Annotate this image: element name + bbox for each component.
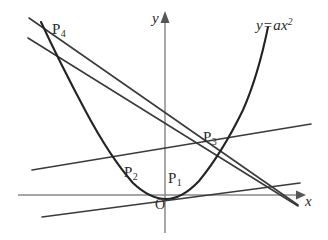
curve-equation-label: y=ax2	[256, 18, 293, 33]
point-sub-p4: 4	[60, 28, 65, 39]
line-through-p2-p3	[32, 124, 311, 170]
point-label-p1: P1	[168, 171, 182, 188]
origin-label: O	[155, 198, 165, 212]
line-through-p4-p1	[29, 18, 298, 205]
line-through-p1-p2	[42, 183, 300, 217]
x-axis-label: x	[305, 194, 312, 209]
y-axis-label: y	[152, 11, 159, 26]
point-sub-p3: 3	[211, 136, 216, 147]
y-axis-arrow-icon	[161, 11, 170, 23]
curve-equation-base: y=ax	[256, 17, 288, 33]
geometry-figure: y x O y=ax2 P1 P2 P3 P4	[0, 0, 328, 240]
point-sub-p1: 1	[176, 177, 181, 188]
point-label-p4: P4	[52, 22, 66, 39]
curve-equation-exponent: 2	[288, 17, 293, 27]
point-sub-p2: 2	[132, 171, 137, 182]
line-through-p4-p3	[28, 38, 298, 206]
parabola-curve	[41, 22, 268, 199]
point-label-p2: P2	[124, 165, 138, 182]
point-label-p3: P3	[203, 130, 217, 147]
